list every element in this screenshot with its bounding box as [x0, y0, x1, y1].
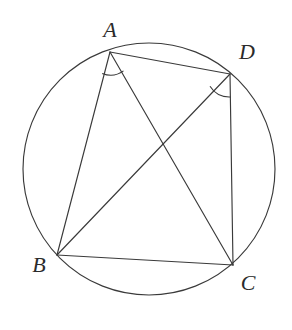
vertex-label-D: D — [239, 41, 255, 63]
segment-DC — [230, 74, 233, 265]
vertex-label-B: B — [32, 254, 45, 276]
segment-AC — [110, 52, 233, 265]
segment-BC — [57, 255, 233, 265]
segment-AD — [110, 52, 230, 74]
segment-AB — [57, 52, 110, 255]
circumscribed-circle — [23, 43, 275, 295]
vertex-label-A: A — [103, 19, 116, 41]
vertex-label-C: C — [241, 272, 256, 294]
segment-BD — [57, 74, 230, 255]
geometry-figure: A D B C — [0, 0, 292, 330]
